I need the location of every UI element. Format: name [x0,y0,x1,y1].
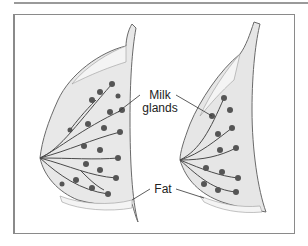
dense-breast-drawing [40,24,138,222]
milk-glands-label-line2: glands [140,102,180,115]
fat-label: Fat [148,183,178,196]
fatty-breast-drawing [180,22,266,213]
breast-illustration [0,0,308,246]
milk-glands-label: Milk glands [140,89,180,115]
